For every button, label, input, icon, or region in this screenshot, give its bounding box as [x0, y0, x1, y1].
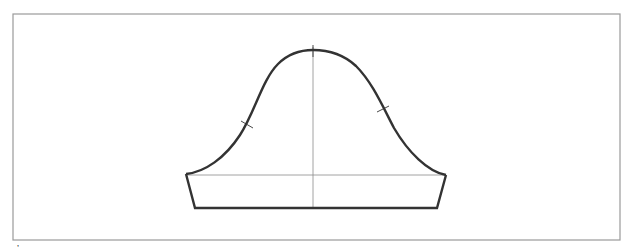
sleeve-cap-curve — [186, 50, 446, 175]
sleeve-pattern-diagram — [0, 0, 630, 251]
caption-fragment: ’ — [17, 244, 19, 251]
sleeve-band-outline — [186, 174, 446, 208]
diagram-frame — [13, 14, 620, 240]
